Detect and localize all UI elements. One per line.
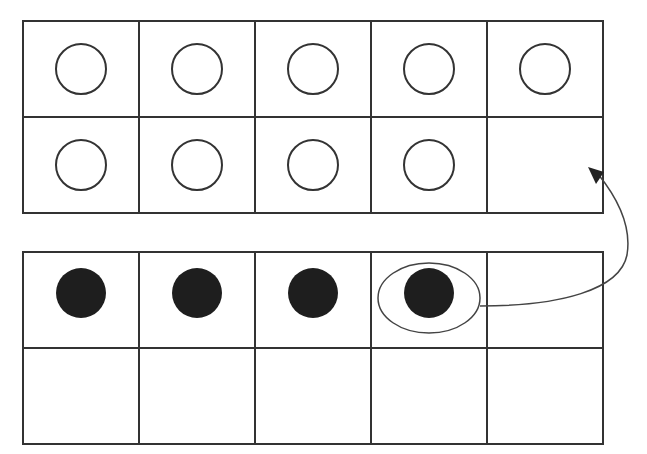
frame-cell — [139, 117, 255, 213]
open-counter — [288, 44, 338, 94]
open-counter — [172, 140, 222, 190]
open-counter — [404, 44, 454, 94]
frame-cell — [23, 117, 139, 213]
bottom-ten-frame — [23, 252, 603, 444]
open-counter — [56, 44, 106, 94]
open-counter — [404, 140, 454, 190]
frame-cell — [23, 21, 139, 117]
top-ten-frame — [23, 21, 603, 213]
frame-cell — [255, 21, 371, 117]
open-counter — [288, 140, 338, 190]
frame-cell — [487, 21, 603, 117]
filled-counter — [404, 268, 454, 318]
open-counter — [520, 44, 570, 94]
arrowhead-icon — [588, 167, 604, 184]
frame-cell — [255, 348, 371, 444]
filled-counter — [56, 268, 106, 318]
frame-cell — [371, 117, 487, 213]
filled-counter — [172, 268, 222, 318]
frame-cell — [255, 117, 371, 213]
move-arrow — [480, 174, 628, 306]
filled-counter — [288, 268, 338, 318]
frame-cell — [371, 348, 487, 444]
frame-cell — [371, 21, 487, 117]
frame-cell — [139, 21, 255, 117]
open-counter — [172, 44, 222, 94]
frame-cell — [23, 348, 139, 444]
frame-cell — [487, 252, 603, 348]
frame-cell — [487, 117, 603, 213]
frame-cell — [139, 348, 255, 444]
ten-frames-diagram — [0, 0, 647, 454]
frame-cell — [487, 348, 603, 444]
open-counter — [56, 140, 106, 190]
